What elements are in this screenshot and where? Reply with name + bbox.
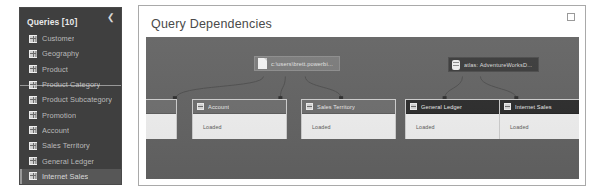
table-icon: [29, 126, 37, 134]
query-card-clipped[interactable]: [146, 99, 177, 139]
query-card-internet-sales[interactable]: Internet Sales Loaded: [499, 99, 579, 139]
table-icon: [504, 103, 511, 110]
query-card-general-ledger[interactable]: General Ledger Loaded: [405, 99, 500, 139]
query-item-label: Product Category: [42, 80, 100, 89]
query-card-body: Loaded: [302, 114, 395, 139]
query-list-item-promotion[interactable]: Promotion: [20, 107, 121, 122]
query-item-label: Promotion: [42, 111, 76, 120]
source-node-label: c:\users\brett.powerbi...: [271, 61, 333, 67]
query-card-body: Loaded: [193, 114, 286, 139]
table-icon: [197, 103, 204, 110]
query-item-label: Sales Territory: [42, 141, 90, 150]
query-card-status: Loaded: [416, 124, 435, 130]
table-icon: [29, 157, 37, 165]
table-icon: [29, 81, 37, 89]
query-card-status: Loaded: [312, 124, 331, 130]
query-item-label: Product: [42, 65, 68, 74]
query-list-item-product[interactable]: Product: [20, 62, 121, 77]
query-card-title: Sales Territory: [317, 104, 355, 110]
query-card-body: [146, 114, 176, 139]
table-icon: [29, 142, 37, 150]
queries-pane-header: Queries [10] ❮: [20, 8, 121, 28]
query-dependencies-screen: Queries [10] ❮ Customer Geography Produc…: [0, 0, 590, 190]
table-icon: [29, 172, 37, 180]
query-dependencies-dialog: Query Dependencies: [138, 5, 586, 186]
table-icon: [29, 50, 37, 58]
query-list-item-internet-sales[interactable]: Internet Sales: [20, 169, 121, 184]
query-card-status: Loaded: [203, 124, 222, 130]
query-list-item-general-ledger[interactable]: General Ledger: [20, 153, 121, 168]
query-list-item-sales-territory[interactable]: Sales Territory: [20, 138, 121, 153]
table-icon: [410, 103, 417, 110]
query-item-label: Internet Sales: [42, 172, 88, 181]
query-list-item-geography[interactable]: Geography: [20, 46, 121, 61]
table-icon: [29, 96, 37, 104]
table-icon: [306, 103, 313, 110]
query-list-item-account[interactable]: Account: [20, 123, 121, 138]
table-icon: [29, 35, 37, 43]
query-card-title: Internet Sales: [515, 104, 552, 110]
source-node-database[interactable]: atlas: AdventureWorksD...: [448, 57, 539, 72]
queries-pane-title: Queries [10]: [27, 17, 77, 27]
query-card-body: Loaded: [500, 114, 579, 139]
query-item-label: Geography: [42, 49, 79, 58]
source-node-file[interactable]: c:\users\brett.powerbi...: [254, 56, 340, 71]
table-icon: [29, 65, 37, 73]
source-node-label: atlas: AdventureWorksD...: [464, 62, 532, 68]
queries-list: Customer Geography Product Product Categ…: [20, 31, 121, 184]
query-card-title: General Ledger: [421, 104, 462, 110]
query-card-header: General Ledger: [406, 100, 499, 114]
restore-window-icon[interactable]: [567, 13, 575, 21]
query-list-item-product-subcategory[interactable]: Product Subcategory: [20, 92, 121, 107]
query-card-sales-territory[interactable]: Sales Territory Loaded: [301, 99, 396, 139]
file-icon: [258, 58, 267, 69]
query-list-item-product-category[interactable]: Product Category: [20, 77, 121, 92]
query-card-status: Loaded: [510, 124, 529, 130]
query-card-header: Account: [193, 100, 286, 114]
query-item-label: Account: [42, 126, 69, 135]
query-card-header: [146, 100, 176, 114]
table-icon: [29, 111, 37, 119]
query-card-account[interactable]: Account Loaded: [192, 99, 287, 139]
query-card-title: Account: [208, 104, 229, 110]
dialog-header: Query Dependencies: [139, 6, 585, 39]
query-card-header: Internet Sales: [500, 100, 579, 114]
dependency-canvas[interactable]: c:\users\brett.powerbi... atlas: Adventu…: [146, 37, 579, 179]
query-card-header: Sales Territory: [302, 100, 395, 114]
query-item-label: Customer: [42, 34, 74, 43]
query-item-label: Product Subcategory: [42, 95, 112, 104]
query-item-label: General Ledger: [42, 157, 94, 166]
query-card-body: Loaded: [406, 114, 499, 139]
dialog-title: Query Dependencies: [151, 17, 272, 31]
database-icon: [452, 60, 460, 70]
queries-pane: Queries [10] ❮ Customer Geography Produc…: [19, 7, 122, 185]
query-list-item-customer[interactable]: Customer: [20, 31, 121, 46]
chevron-left-icon[interactable]: ❮: [107, 12, 115, 22]
